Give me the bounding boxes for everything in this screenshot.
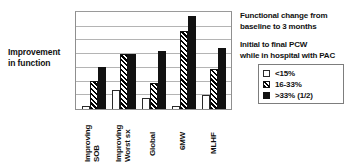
legend-item-16-33: 16-33% (263, 79, 339, 89)
x-tick-improving-worst-sx-line-1: Improving (114, 125, 123, 162)
bar-improving-worst-sx-16-33 (120, 54, 128, 109)
x-tick-improving-worst-sx-line-2: Worst sx (123, 125, 132, 162)
x-tick-improving-sob-line-1: Improving (83, 125, 92, 162)
bar-global-lt15 (142, 98, 150, 109)
legend-label-gt33: >33% (1/2) (275, 91, 313, 100)
legend-swatch-open-icon (263, 70, 270, 77)
annotation-functional-change-line-1: Functional change from (240, 11, 348, 22)
annotation-initial-final-pcw-line-2: while in hospital with PAC (240, 51, 348, 62)
x-tick-global-line-1: Global (148, 132, 157, 156)
annotation-block: Functional change from baseline to 3 mon… (240, 11, 348, 61)
bar-groups (76, 12, 231, 109)
bar-6mw-16-33 (180, 31, 188, 109)
x-tick-mlhf-line-1: MLHF (209, 132, 218, 154)
bar-group-improving-worst-sx (112, 12, 136, 109)
bar-global-gt33 (158, 51, 166, 109)
x-tick-6mw-line-1: 6MW (178, 132, 187, 150)
legend-item-gt33: >33% (1/2) (263, 90, 339, 100)
bar-chart-figure: Improvement in function (0, 0, 350, 164)
legend-label-16-33: 16-33% (275, 80, 302, 89)
y-axis-label: Improvement in function (8, 47, 76, 68)
bar-6mw-gt33 (188, 16, 196, 109)
bar-group-mlhf (202, 12, 226, 109)
y-axis-label-line-2: in function (8, 58, 76, 69)
bar-mlhf-lt15 (202, 95, 210, 109)
y-axis-label-line-1: Improvement (8, 47, 76, 58)
bar-improving-sob-gt33 (98, 67, 106, 109)
annotation-functional-change-line-2: baseline to 3 months (240, 22, 348, 33)
bar-mlhf-gt33 (218, 48, 226, 109)
bar-group-global (142, 12, 166, 109)
legend-swatch-solid-icon (263, 92, 270, 99)
bar-improving-worst-sx-gt33 (128, 54, 136, 109)
x-axis-tick-labels: Improving SOB Improving Worst sx Global … (75, 112, 232, 164)
bar-improving-sob-lt15 (82, 106, 90, 109)
bar-6mw-lt15 (172, 106, 180, 109)
annotation-initial-final-pcw-line-1: Initial to final PCW (240, 40, 348, 51)
bar-improving-worst-sx-lt15 (112, 90, 120, 109)
legend-label-lt15: <15% (275, 69, 295, 78)
bar-mlhf-16-33 (210, 69, 218, 109)
bar-improving-sob-16-33 (90, 81, 98, 109)
bar-global-16-33 (150, 83, 158, 109)
bar-group-6mw (172, 12, 196, 109)
legend-item-lt15: <15% (263, 68, 339, 78)
bar-group-improving-sob (82, 12, 106, 109)
chart-legend: <15% 16-33% >33% (1/2) (258, 64, 344, 104)
x-tick-mlhf: MLHF (209, 112, 261, 162)
plot-area (75, 11, 232, 110)
annotation-initial-final-pcw: Initial to final PCW while in hospital w… (240, 40, 348, 61)
legend-swatch-hatched-icon (263, 81, 270, 88)
annotation-functional-change: Functional change from baseline to 3 mon… (240, 11, 348, 32)
x-tick-improving-sob-line-2: SOB (92, 125, 101, 162)
